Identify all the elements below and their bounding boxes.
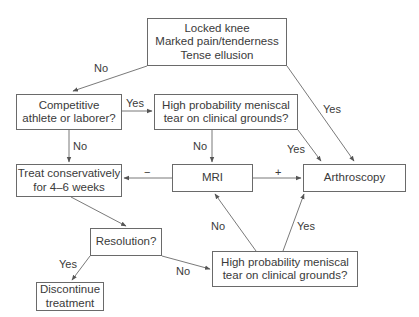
label-highprob2-yes: Yes: [297, 220, 315, 232]
label-highprob2-no: No: [211, 220, 225, 232]
label-start-no: No: [94, 62, 108, 74]
label-competitive-no: No: [73, 140, 87, 152]
label-start-yes: Yes: [323, 103, 341, 115]
label-highprob1-no: No: [193, 140, 207, 152]
node-high-probability-2: High probability meniscal tear on clinic…: [212, 251, 358, 287]
flowchart: Locked knee Marked pain/tenderness Tense…: [0, 0, 419, 317]
edge-start-to-competitive: [73, 66, 147, 91]
node-high-probability-1: High probability meniscal tear on clinic…: [154, 94, 298, 130]
label-mri-negative: −: [144, 166, 150, 178]
node-resolution: Resolution?: [90, 228, 162, 256]
node-arthroscopy: Arthroscopy: [303, 164, 406, 192]
label-resolution-yes: Yes: [59, 258, 77, 270]
label-mri-positive: +: [275, 166, 281, 178]
node-competitive-athlete: Competitive athlete or laborer?: [16, 94, 122, 130]
node-discontinue-treatment: Discontinue treatment: [36, 282, 104, 311]
label-competitive-yes: Yes: [126, 97, 144, 109]
node-treat-conservatively: Treat conservatively for 4–6 weeks: [16, 164, 122, 197]
node-mri: MRI: [172, 164, 253, 192]
label-resolution-no: No: [176, 265, 190, 277]
node-locked-knee: Locked knee Marked pain/tenderness Tense…: [147, 18, 287, 66]
label-highprob1-yes: Yes: [287, 143, 305, 155]
edge-treat-to-resolution: [71, 197, 126, 226]
